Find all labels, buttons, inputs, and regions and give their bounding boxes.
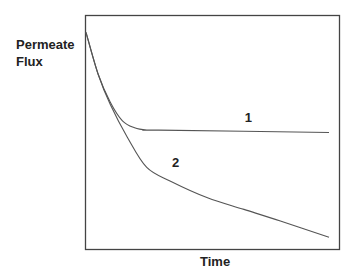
series-line-2 — [86, 32, 329, 237]
series-line-1 — [86, 32, 329, 132]
chart — [0, 0, 357, 275]
